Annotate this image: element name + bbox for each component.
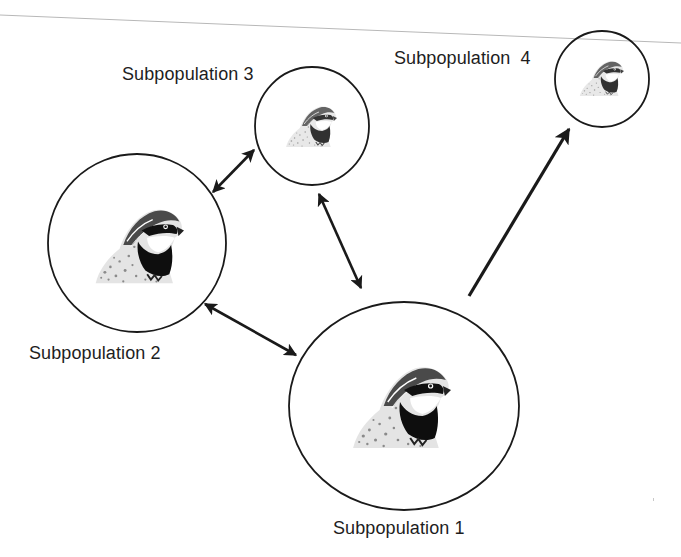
quail-icon bbox=[96, 210, 184, 284]
label-subpopulation-2: Subpopulation 2 bbox=[29, 342, 161, 364]
scan-line bbox=[0, 15, 681, 43]
arrow-sub2-sub1 bbox=[205, 304, 296, 355]
arrow-sub3-sub1 bbox=[319, 194, 361, 288]
label-subpopulation-1: Subpopulation 1 bbox=[333, 517, 465, 539]
metapopulation-diagram: Subpopulation 1 Subpopulation 2 Subpopul… bbox=[0, 0, 681, 557]
node-subpopulation-3 bbox=[255, 67, 369, 185]
arrow-sub1-sub4 bbox=[469, 129, 569, 296]
diagram-canvas bbox=[0, 0, 681, 557]
node-subpopulation-4 bbox=[555, 31, 649, 127]
quail-icon bbox=[580, 61, 624, 96]
quail-icon bbox=[353, 367, 451, 448]
arrow-sub3-sub2 bbox=[213, 150, 254, 192]
node-subpopulation-1 bbox=[289, 302, 519, 510]
label-subpopulation-3: Subpopulation 3 bbox=[122, 63, 254, 85]
node-subpopulation-2 bbox=[48, 154, 226, 332]
speck bbox=[653, 498, 654, 501]
label-subpopulation-4: Subpopulation 4 bbox=[394, 47, 531, 69]
quail-icon bbox=[286, 107, 337, 147]
